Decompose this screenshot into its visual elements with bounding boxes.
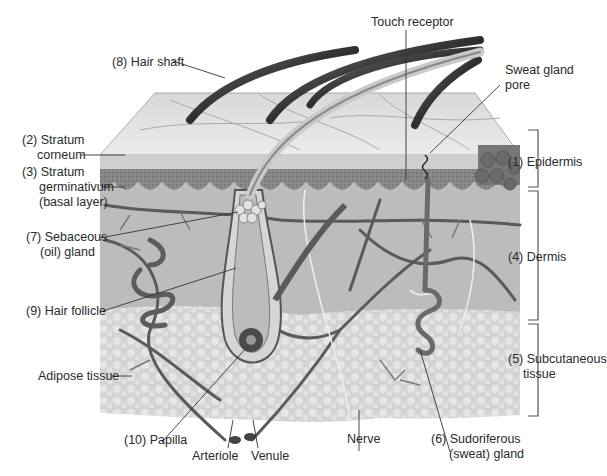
label-papilla: (10) Papilla bbox=[124, 433, 187, 448]
label-epidermis: (1) Epidermis bbox=[508, 155, 582, 170]
label-sebaceous-gland: (7) Sebaceous (oil) gland bbox=[26, 230, 107, 260]
label-nerve: Nerve bbox=[347, 432, 380, 447]
label-touch-receptor: Touch receptor bbox=[371, 15, 454, 30]
label-dermis: (4) Dermis bbox=[508, 250, 566, 265]
label-adipose-tissue: Adipose tissue bbox=[38, 369, 119, 384]
label-stratum-corneum: (2) Stratum corneum bbox=[22, 133, 86, 163]
label-arteriole: Arteriole bbox=[192, 449, 239, 464]
label-stratum-germinativum: (3) Stratum germinativum (basal layer) bbox=[22, 165, 114, 210]
label-hair-follicle: (9) Hair follicle bbox=[26, 304, 106, 319]
label-hair-shaft: (8) Hair shaft bbox=[112, 55, 184, 70]
label-venule: Venule bbox=[251, 449, 289, 464]
label-sudoriferous-gland: (6) Sudoriferous (sweat) gland bbox=[431, 432, 524, 462]
stratum-corneum-layer bbox=[100, 155, 520, 169]
arteriole-venule bbox=[229, 433, 256, 444]
label-sweat-gland-pore: Sweat gland pore bbox=[505, 63, 574, 93]
label-subcutaneous-tissue: (5) Subcutaneous tissue bbox=[508, 352, 607, 382]
